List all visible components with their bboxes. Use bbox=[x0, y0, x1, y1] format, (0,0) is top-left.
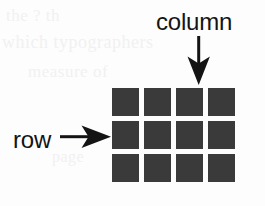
arrow-right-icon bbox=[60, 124, 112, 150]
ghost-text-line-1: the ? th bbox=[6, 6, 60, 26]
grid-cell bbox=[208, 88, 235, 116]
grid-cell bbox=[208, 121, 235, 149]
grid-cell bbox=[144, 154, 171, 182]
ghost-text-line-4: page bbox=[52, 148, 84, 166]
grid-cell bbox=[112, 154, 139, 182]
grid-cell bbox=[144, 88, 171, 116]
figure-canvas: the ? th which typographers measure of p… bbox=[0, 0, 265, 206]
row-label: row bbox=[13, 126, 51, 154]
ghost-text-line-2: which typographers bbox=[2, 32, 153, 53]
grid-cell bbox=[176, 121, 203, 149]
grid-cell bbox=[176, 154, 203, 182]
square-grid bbox=[112, 88, 235, 182]
grid-cell bbox=[144, 121, 171, 149]
arrow-down-icon bbox=[186, 36, 212, 86]
grid-cell bbox=[112, 88, 139, 116]
ghost-text-line-3: measure of bbox=[28, 62, 108, 82]
column-label: column bbox=[156, 8, 232, 36]
grid-cell bbox=[208, 154, 235, 182]
grid-cell bbox=[112, 121, 139, 149]
grid-cell bbox=[176, 88, 203, 116]
